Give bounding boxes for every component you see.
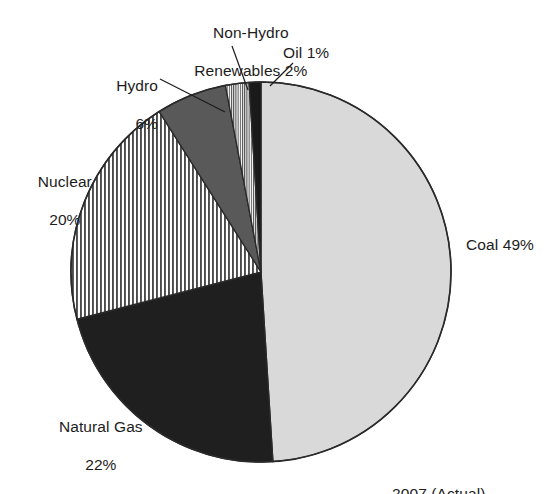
slice-label-hydro-line2: 6% [135, 115, 158, 132]
pie-chart: Non-Hydro Renewables 2% Oil 1% Hydro 6% … [0, 0, 553, 494]
slice-label-coal: Coal 49% [466, 235, 552, 254]
slice-label-oil: Oil 1% [283, 43, 393, 62]
pie-slice-coal[interactable] [261, 82, 451, 462]
slice-label-hydro-line1: Hydro [116, 77, 158, 94]
slice-label-nuclear-line2: 20% [49, 211, 80, 228]
slice-label-non-hydro-renewables-line1: Non-Hydro [213, 24, 289, 41]
slice-label-natural-gas-line2: 22% [85, 456, 116, 473]
slice-label-natural-gas: Natural Gas 22% [22, 398, 162, 493]
chart-total-annotation: 2007 (Actual) 4,137 TWh/yr [392, 444, 552, 494]
chart-year-label: 2007 (Actual) [392, 484, 552, 494]
slice-label-natural-gas-line1: Natural Gas [59, 418, 143, 435]
slice-label-nuclear-line1: Nuclear [38, 173, 92, 190]
slice-label-non-hydro-renewables-line2: Renewables 2% [194, 62, 307, 79]
slice-label-nuclear: Nuclear 20% [4, 153, 108, 248]
slice-label-hydro: Hydro 6% [46, 57, 158, 152]
